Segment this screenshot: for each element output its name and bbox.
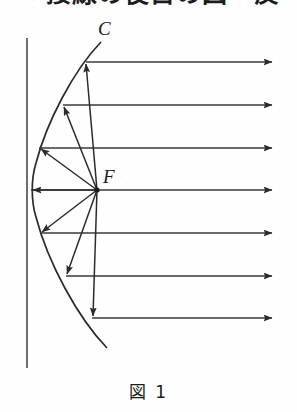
parabolic-mirror-figure: C F xyxy=(0,13,297,375)
focus-point xyxy=(94,187,99,192)
reflected-rays-group xyxy=(33,64,97,316)
heading-text: 接線の役目の図 反 xyxy=(46,0,286,8)
heading-strip: 接線の役目の図 反 xyxy=(0,0,297,13)
figure-page: 接線の役目の図 反 xyxy=(0,0,297,412)
curve-label-c: C xyxy=(98,18,111,39)
focus-label-f: F xyxy=(102,166,115,187)
reflected-ray-1 xyxy=(86,64,97,190)
figure-caption: 図 1 xyxy=(0,378,297,403)
reflected-ray-6 xyxy=(67,190,97,274)
figure-svg: C F xyxy=(0,13,297,375)
reflected-ray-7 xyxy=(93,190,97,316)
